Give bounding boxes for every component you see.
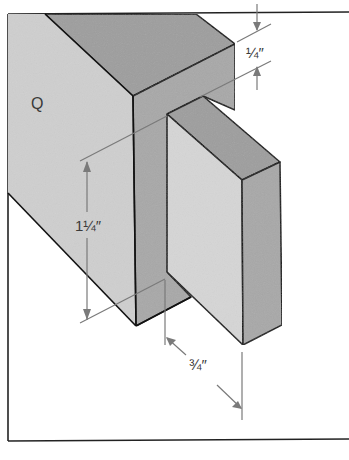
tenon-end-face <box>242 162 282 345</box>
dimension-label-three-quarter-inch: ¾″ <box>189 357 207 372</box>
joinery-diagram <box>0 0 349 460</box>
tenon <box>167 96 282 345</box>
dimension-label-quarter-inch: ¼″ <box>246 45 264 60</box>
arrow-downright-icon <box>232 401 242 409</box>
part-label-q: Q <box>31 96 43 112</box>
dimension-label-one-and-quarter-inch: 1¼″ <box>75 218 101 233</box>
arrow-up-icon <box>253 66 261 76</box>
